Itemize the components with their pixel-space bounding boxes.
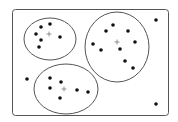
data-point [133, 40, 137, 44]
outlier-point [25, 77, 29, 81]
data-point [48, 22, 52, 26]
data-point [126, 29, 130, 33]
data-point [75, 88, 79, 92]
data-point [131, 66, 135, 70]
data-point [48, 76, 52, 80]
data-point [58, 96, 62, 100]
centroid-plus-icon [115, 40, 120, 45]
clusters-group [24, 12, 149, 114]
data-point [59, 80, 63, 84]
data-point [118, 47, 122, 51]
cluster-3 [34, 64, 98, 114]
cluster-diagram [0, 0, 178, 122]
data-point [99, 48, 103, 52]
data-point [34, 32, 38, 36]
outlier-point [154, 18, 158, 22]
cluster-boundary [85, 12, 149, 82]
data-point [39, 25, 43, 29]
outliers-group [25, 18, 158, 106]
cluster-1 [24, 18, 76, 60]
centroid-plus-icon [62, 87, 67, 92]
data-point [58, 35, 62, 39]
cluster-2 [85, 12, 149, 82]
data-point [37, 45, 41, 49]
data-point [86, 90, 90, 94]
outlier-point [154, 102, 158, 106]
diagram-frame [13, 10, 169, 116]
data-point [48, 86, 52, 90]
data-point [91, 42, 95, 46]
data-point [123, 59, 127, 63]
data-point [104, 29, 108, 33]
data-point [39, 38, 43, 42]
data-point [111, 23, 115, 27]
centroid-plus-icon [47, 32, 52, 37]
